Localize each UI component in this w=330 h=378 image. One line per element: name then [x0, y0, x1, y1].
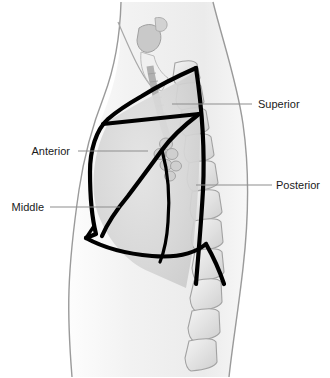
bronchus-node — [171, 161, 182, 171]
label-posterior: Posterior — [276, 179, 320, 191]
vertebra — [188, 309, 220, 341]
tongue-base — [155, 17, 167, 31]
anatomy-figure: Superior Anterior Middle Posterior — [0, 0, 330, 378]
label-superior: Superior — [258, 98, 300, 110]
label-middle: Middle — [12, 201, 44, 213]
vertebra — [185, 339, 217, 371]
bronchus-node — [166, 149, 178, 160]
label-anterior: Anterior — [31, 145, 70, 157]
thorax-lateral-diagram: Superior Anterior Middle Posterior — [0, 0, 330, 378]
